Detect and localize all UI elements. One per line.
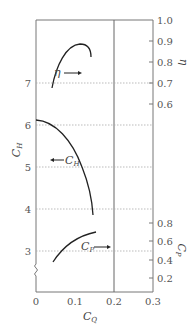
tick-ch-3: 3	[25, 246, 31, 257]
left-axis-ticks: 7 6 5 4 3	[25, 78, 31, 257]
cp-axis-label: CP	[174, 243, 188, 256]
performance-chart: 7 6 5 4 3 CH 1.0 0.9 0.8 0.7 0.6 η 0.8 0…	[0, 0, 190, 336]
svg-text:η: η	[54, 66, 61, 79]
tick-eta-0.8: 0.8	[157, 57, 173, 68]
svg-text:η: η	[177, 59, 190, 66]
tick-eta-0.6: 0.6	[157, 99, 173, 110]
svg-text:CP: CP	[174, 243, 188, 256]
tick-ch-4: 4	[25, 204, 31, 215]
tick-eta-1.0: 1.0	[157, 15, 173, 26]
tick-cq-0.3: 0.3	[145, 296, 161, 307]
tick-cp-0.8: 0.8	[157, 218, 173, 229]
tick-eta-0.7: 0.7	[157, 78, 173, 89]
tick-ch-6: 6	[25, 120, 31, 131]
svg-text:CH: CH	[10, 142, 24, 157]
arrow-right-icon	[107, 245, 111, 249]
tick-cq-0: 0	[33, 296, 39, 307]
arrow-left-icon	[50, 158, 54, 162]
ch-curve	[36, 120, 93, 215]
tick-cq-0.2: 0.2	[106, 296, 122, 307]
tick-ch-5: 5	[25, 162, 31, 173]
axis-break-icon	[35, 264, 38, 276]
x-axis-tick-labels: 0 0.1 0.2 0.3	[33, 296, 161, 307]
svg-text:CP: CP	[81, 240, 94, 254]
cp-axis-tick-labels: 0.8 0.6 0.4 0.2	[157, 218, 173, 284]
cp-annotation: CP	[81, 240, 111, 254]
tick-cp-0.2: 0.2	[157, 273, 173, 284]
tick-cp-0.4: 0.4	[157, 255, 173, 266]
tick-eta-0.9: 0.9	[157, 36, 173, 47]
eta-annotation: η	[54, 66, 82, 79]
eta-axis-ticks	[149, 41, 153, 104]
ch-annotation: CH	[50, 154, 80, 168]
cp-axis-ticks	[149, 223, 153, 278]
x-axis-label: CQ	[83, 310, 97, 324]
arrow-right-icon	[78, 71, 82, 75]
eta-axis-label: η	[177, 59, 190, 66]
tick-ch-7: 7	[25, 78, 31, 89]
eta-axis-tick-labels: 1.0 0.9 0.8 0.7 0.6	[157, 15, 173, 110]
left-axis-label: CH	[10, 142, 24, 157]
horizontal-gridlines	[36, 83, 153, 251]
tick-cp-0.6: 0.6	[157, 236, 173, 247]
tick-cq-0.1: 0.1	[67, 296, 83, 307]
